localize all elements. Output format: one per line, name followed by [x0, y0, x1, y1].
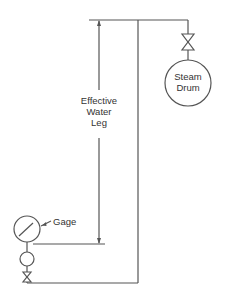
valve-icon [23, 272, 31, 282]
steam-drum-label-line1: Steam [168, 71, 208, 82]
water-leg-label-line3: Leg [76, 117, 122, 128]
gage-label: Gage [53, 216, 83, 227]
diagram-canvas: Steam Drum Effective Water Leg Gage [0, 0, 227, 302]
steam-drum-label-line2: Drum [168, 82, 208, 93]
arrow-up-icon [97, 20, 101, 26]
arrow-down-icon [97, 238, 101, 244]
arrow-icon [42, 222, 47, 226]
siphon-coil-icon [20, 252, 34, 266]
water-leg-label-line1: Effective [76, 95, 122, 106]
water-leg-label: Effective Water Leg [76, 95, 122, 128]
gage-needle [19, 223, 33, 236]
valve-icon [182, 34, 194, 50]
steam-drum-label: Steam Drum [168, 71, 208, 93]
water-leg-label-line2: Water [76, 106, 122, 117]
